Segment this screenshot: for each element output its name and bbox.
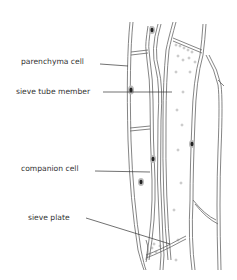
label-companion-cell: companion cell <box>21 165 79 173</box>
label-sieve-plate: sieve plate <box>28 214 70 222</box>
sieve-plate-leader-line <box>86 218 170 244</box>
companion-leader-line <box>95 171 150 172</box>
parenchyma-leader-line <box>100 64 128 66</box>
label-parenchyma-cell: parenchyma cell <box>21 58 84 66</box>
phloem-cells-illustration <box>0 0 237 280</box>
parenchyma-outer-wall <box>127 22 144 270</box>
label-sieve-tube-member: sieve tube member <box>16 88 90 96</box>
phloem-diagram: parenchyma cell sieve tube member compan… <box>0 0 237 280</box>
